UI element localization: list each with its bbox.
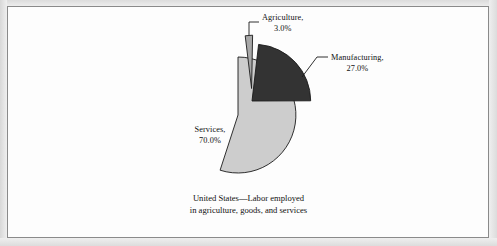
figure-caption-line-1: United States—Labor employed [0, 193, 497, 205]
slice-label-agriculture-value: 3.0% [262, 24, 304, 35]
leader-line-manufacturing [302, 57, 328, 77]
slice-label-services-name: Services, [181, 125, 239, 136]
slice-label-agriculture: Agriculture, 3.0% [262, 13, 304, 34]
slice-label-manufacturing-name: Manufacturing, [331, 53, 384, 64]
figure-caption: United States—Labor employed in agricult… [0, 193, 497, 216]
slice-label-services: Services, 70.0% [181, 125, 239, 146]
slice-label-manufacturing: Manufacturing, 27.0% [331, 53, 384, 74]
pie-slice-manufacturing[interactable] [252, 44, 311, 101]
leader-line-agriculture [249, 22, 259, 35]
slice-label-services-value: 70.0% [181, 136, 239, 147]
figure-screenshot: Agriculture, 3.0% Manufacturing, 27.0% S… [0, 0, 497, 246]
slice-label-manufacturing-value: 27.0% [331, 64, 384, 75]
slice-label-agriculture-name: Agriculture, [262, 13, 304, 24]
figure-caption-line-2: in agriculture, goods, and services [0, 205, 497, 217]
